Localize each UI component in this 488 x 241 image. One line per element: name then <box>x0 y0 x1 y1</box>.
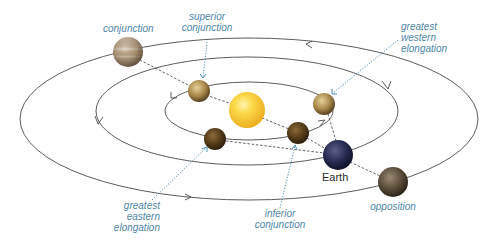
label-opposition: opposition <box>368 201 418 212</box>
callout-greatest-eastern-elongation <box>152 148 206 200</box>
sightline-eastern-elongation <box>226 141 324 153</box>
outer-planet-opposition-icon <box>378 167 408 197</box>
label-greatest-eastern-elongation: greatest eastern elongation <box>100 200 160 233</box>
callout-greatest-western-elongation <box>333 40 398 93</box>
sightline-earth-opposition <box>350 162 380 176</box>
arrow-inner-right-icon <box>318 120 325 126</box>
label-conjunction: conjunction <box>103 23 153 34</box>
earth-icon <box>323 140 353 170</box>
sightline-sun-inferior <box>262 118 289 129</box>
arrow-middle-left-icon <box>95 116 103 124</box>
planet-inferior-conjunction-icon <box>287 122 309 144</box>
sun-icon <box>229 92 265 128</box>
arrow-outer-top-icon <box>306 41 312 48</box>
sightline-superior-sun <box>206 95 232 104</box>
callouts <box>152 40 398 208</box>
planet-greatest-western-elongation-icon <box>313 93 335 115</box>
label-greatest-western-elongation: greatest western elongation <box>401 21 461 54</box>
planet-superior-conjunction-icon <box>188 80 210 102</box>
bodies <box>113 37 408 197</box>
label-inferior-conjunction: inferior conjunction <box>252 208 308 230</box>
sightline-inferior-earth <box>307 138 326 149</box>
label-earth: Earth <box>322 171 348 183</box>
arrow-inner-left-icon <box>171 92 177 98</box>
label-superior-conjunction: superior conjunction <box>180 11 234 33</box>
sightline-western-elongation <box>328 114 336 141</box>
outer-planet-conjunction-icon <box>113 37 143 67</box>
planet-greatest-eastern-elongation-icon <box>204 128 226 150</box>
sightline-conjunction <box>136 58 192 87</box>
